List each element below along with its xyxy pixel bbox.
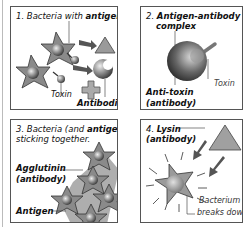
antibody-crescent-icon: [93, 59, 113, 79]
agglutinin-sub-label: (antibody): [16, 174, 66, 184]
agglutinin-label: Agglutinin: [16, 163, 66, 173]
antibody-triangle-icon: [95, 37, 115, 53]
bacterium-label-line1: Bacterium: [199, 196, 240, 206]
antitoxin-label: Anti-toxin: [146, 87, 194, 97]
arrow-icon: [209, 156, 225, 177]
arrow-icon: [79, 40, 97, 50]
bacterium-label-line2: breaks down: [197, 208, 243, 218]
antibody-cross-icon: [82, 81, 100, 99]
bacterium-breaking-icon: [155, 164, 193, 204]
antitoxin-sub-label: (antibody): [146, 98, 196, 108]
toxin-label: Toxin: [214, 79, 235, 89]
toxin-icon: [53, 72, 65, 83]
toxin-label: Toxin: [51, 90, 72, 100]
antitoxin-sphere-icon: [167, 41, 207, 81]
panel-antigen-antibody-complex: 2. Antigen-antibody complex Toxin Anti-t…: [140, 6, 243, 110]
bacterium-star-icon: [41, 32, 75, 65]
antibodies-label: Antibodies: [77, 98, 118, 108]
antigen-label: Antigen: [16, 206, 54, 216]
bacterium-star-icon: [16, 55, 50, 88]
panel-lysin: 4. Lysin (antibody) Bacterium breaks dow…: [140, 119, 243, 223]
page-edge-line: [2, 0, 3, 227]
panel-bacteria-with-antigens: 1. Bacteria with antigens Toxin Antibodi…: [10, 6, 118, 110]
lysin-triangle-icon: [209, 125, 241, 150]
arrow-icon: [193, 140, 207, 160]
panel-bacteria-sticking-together: 3. Bacteria (and antigens) sticking toge…: [10, 119, 118, 223]
arrow-icon: [73, 65, 93, 75]
